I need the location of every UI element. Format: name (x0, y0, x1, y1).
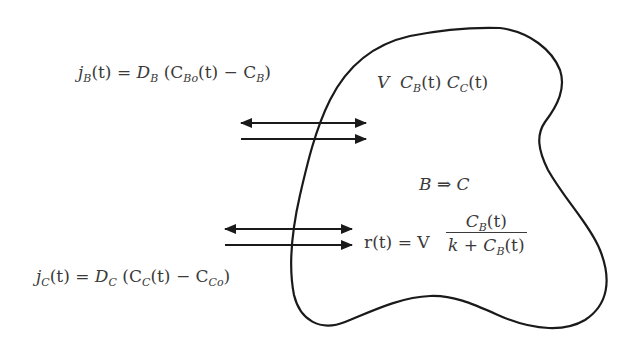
rate-fraction: CB(t) k + CB(t) (446, 211, 527, 255)
rate-expression-lhs: r(t) = V (364, 232, 430, 252)
reactant-B: B (419, 174, 432, 194)
state-expression: V CB(t) CC(t) (377, 72, 488, 92)
reaction-arrow-icon: ⇒ (437, 174, 451, 194)
flux-B-term1-subscript: Bo (183, 72, 198, 85)
flux-B-close: ) (264, 62, 271, 82)
flux-C-close: ) (224, 266, 231, 286)
diffusivity-C-symbol: D (95, 266, 109, 286)
flux-B-equation: jB(t) = DB (CBo(t) − CB) (78, 62, 271, 82)
product-C: C (457, 174, 470, 194)
flux-B-term1-arg: (t) − C (198, 62, 256, 82)
reaction-expression: B ⇒ C (419, 174, 470, 194)
rate-numerator-symbol: C (466, 211, 479, 231)
rate-lhs: r(t) = V (364, 232, 430, 252)
concentration-B-arg: (t) (421, 72, 441, 92)
flux-B-open: (C (158, 62, 183, 82)
diffusivity-B-symbol: D (137, 62, 151, 82)
rate-denominator-k: k + C (448, 235, 496, 255)
concentration-B-symbol: C (400, 72, 413, 92)
diffusivity-C-subscript: C (109, 276, 117, 289)
concentration-B-subscript: B (413, 82, 421, 95)
concentration-C-symbol: C (447, 72, 460, 92)
concentration-C-subscript: C (460, 82, 468, 95)
flux-C-term2-subscript: Co (209, 276, 224, 289)
rate-numerator: CB(t) (446, 211, 527, 231)
diagram-shapes (0, 0, 642, 340)
flux-C-open: (C (117, 266, 142, 286)
rate-numerator-arg: (t) (487, 211, 507, 231)
flux-C-arg: (t) = (50, 266, 95, 286)
flux-C-subscript: C (41, 276, 49, 289)
rate-denominator-arg: (t) (504, 235, 524, 255)
volume-symbol: V (377, 72, 389, 92)
flux-B-arg: (t) = (91, 62, 136, 82)
flux-C-term1-arg: (t) − C (150, 266, 208, 286)
rate-numerator-subscript: B (479, 221, 487, 234)
rate-denominator: k + CB(t) (446, 235, 527, 255)
concentration-C-arg: (t) (468, 72, 488, 92)
flux-C-equation: jC(t) = DC (CC(t) − CCo) (36, 266, 230, 286)
diagram-canvas: jB(t) = DB (CBo(t) − CB) V CB(t) CC(t) B… (0, 0, 642, 340)
